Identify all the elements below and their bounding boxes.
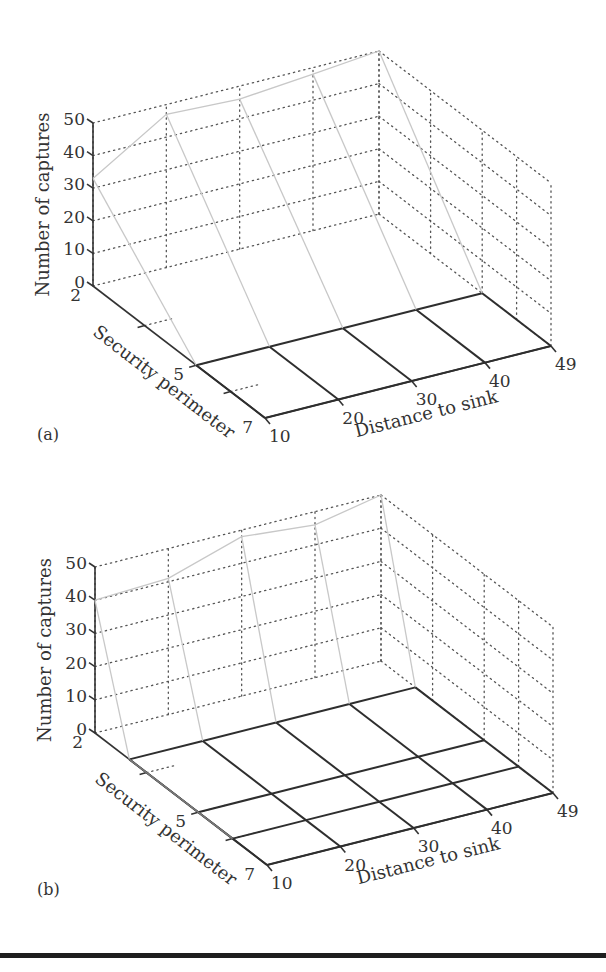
grid [93, 51, 551, 392]
z-tick-label: 20 [65, 653, 87, 673]
security-tick-label: 7 [242, 417, 253, 437]
panel-label: (b) [37, 880, 60, 899]
security-tick-label: 2 [70, 285, 81, 305]
grid [95, 495, 553, 839]
z-tick-label: 20 [63, 207, 85, 227]
z-tick-label: 30 [63, 174, 85, 194]
z-axis-label: Number of captures [34, 558, 55, 742]
z-tick-label: 40 [63, 142, 85, 162]
security-tick-label: 7 [244, 864, 255, 884]
z-tick-label: 40 [65, 586, 87, 606]
chart-panel-b: 010203040502571020304049Number of captur… [34, 495, 579, 899]
z-tick-label: 50 [63, 109, 85, 129]
distance-tick-label: 49 [555, 354, 577, 374]
figure-canvas: 010203040502571020304049Number of captur… [0, 0, 606, 972]
panel-label: (a) [37, 425, 59, 444]
z-tick-label: 30 [65, 619, 87, 639]
z-axis-label: Number of captures [32, 113, 53, 297]
distance-tick-label: 49 [557, 801, 579, 821]
distance-tick-label: 10 [271, 873, 293, 893]
security-tick-label: 2 [72, 732, 83, 752]
z-tick-label: 50 [65, 553, 87, 573]
axes: 010203040502571020304049 [65, 553, 578, 893]
chart-panel-a: 010203040502571020304049Number of captur… [32, 51, 577, 446]
bottom-rule [0, 953, 606, 958]
distance-tick-label: 10 [269, 426, 291, 446]
z-tick-label: 10 [65, 686, 87, 706]
z-tick-label: 10 [63, 239, 85, 259]
